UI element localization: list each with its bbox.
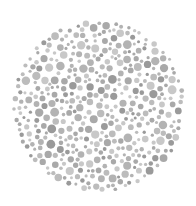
- plate-dot: [172, 129, 176, 133]
- plate-dot: [134, 63, 142, 71]
- plate-dot: [63, 92, 68, 97]
- plate-dot: [51, 76, 59, 84]
- plate-dot: [143, 79, 147, 83]
- plate-dot: [149, 90, 157, 98]
- plate-dot: [106, 113, 110, 117]
- plate-dot: [70, 176, 73, 179]
- plate-dot: [133, 43, 136, 46]
- plate-dot: [74, 137, 78, 141]
- plate-dot: [79, 100, 82, 103]
- plate-dot: [18, 90, 22, 94]
- plate-dot: [136, 112, 140, 116]
- plate-dot: [48, 100, 55, 107]
- plate-dot: [168, 85, 177, 94]
- plate-dot: [135, 96, 138, 99]
- plate-dot: [109, 149, 114, 154]
- plate-dot: [159, 109, 164, 114]
- plate-dot: [74, 114, 81, 121]
- plate-dot: [41, 40, 46, 45]
- plate-dot: [67, 135, 72, 140]
- plate-dots: [12, 20, 184, 191]
- plate-dot: [55, 174, 63, 182]
- plate-dot: [43, 136, 47, 140]
- plate-dot: [117, 78, 120, 81]
- plate-dot: [67, 43, 70, 46]
- plate-dot: [140, 60, 144, 64]
- plate-dot: [36, 129, 41, 134]
- plate-dot: [83, 20, 89, 26]
- plate-dot: [90, 115, 98, 123]
- plate-dot: [134, 56, 139, 61]
- plate-dot: [165, 112, 171, 118]
- plate-dot: [30, 64, 35, 69]
- plate-dot: [157, 86, 163, 92]
- plate-dot: [148, 109, 152, 113]
- plate-dot: [61, 119, 66, 124]
- plate-dot: [152, 107, 156, 111]
- plate-dot: [104, 118, 107, 121]
- plate-dot: [133, 88, 139, 94]
- plate-dot: [110, 115, 114, 119]
- plate-dot: [144, 163, 147, 166]
- plate-dot: [66, 167, 74, 175]
- plate-dot: [67, 75, 71, 79]
- plate-dot: [138, 104, 144, 110]
- plate-dot: [158, 76, 164, 82]
- plate-dot: [163, 97, 166, 100]
- plate-dot: [68, 29, 72, 33]
- plate-dot: [78, 127, 83, 132]
- plate-dot: [137, 73, 141, 77]
- plate-dot: [150, 118, 155, 123]
- plate-dot: [59, 141, 64, 146]
- plate-dot: [60, 51, 68, 59]
- plate-dot: [83, 116, 86, 119]
- plate-dot: [52, 92, 58, 98]
- plate-dot: [169, 76, 176, 83]
- plate-dot: [29, 154, 33, 158]
- plate-dot: [169, 96, 173, 100]
- plate-dot: [86, 181, 90, 185]
- plate-dot: [73, 73, 76, 76]
- plate-dot: [139, 83, 143, 87]
- plate-dot: [147, 56, 150, 59]
- plate-dot: [21, 72, 25, 76]
- plate-dot: [176, 126, 180, 130]
- plate-dot: [98, 175, 105, 182]
- plate-dot: [135, 131, 138, 134]
- plate-dot: [112, 139, 117, 144]
- plate-dot: [57, 146, 64, 153]
- plate-dot: [34, 60, 39, 65]
- plate-dot: [139, 163, 142, 166]
- color-vision-test-plate: [0, 0, 196, 206]
- plate-dot: [86, 45, 90, 49]
- plate-dot: [90, 174, 95, 179]
- plate-dot: [94, 39, 97, 42]
- plate-dot: [47, 37, 51, 41]
- plate-dot: [108, 47, 112, 51]
- plate-dot: [67, 68, 72, 73]
- plate-dot: [166, 133, 172, 139]
- plate-dot: [69, 98, 75, 104]
- plate-dot: [160, 55, 166, 61]
- plate-dot: [19, 111, 23, 115]
- plate-dot: [127, 26, 130, 29]
- plate-dot: [49, 57, 53, 61]
- plate-dot: [86, 148, 92, 154]
- plate-dot: [177, 119, 181, 123]
- plate-dot: [56, 85, 59, 88]
- plate-dot: [76, 51, 82, 57]
- plate-dot: [159, 102, 165, 108]
- plate-dot: [25, 96, 32, 103]
- plate-dot: [127, 181, 131, 185]
- plate-dot: [164, 84, 168, 88]
- plate-dot: [80, 33, 85, 38]
- plate-dot: [45, 131, 48, 134]
- plate-dot: [28, 57, 31, 60]
- plate-dot: [147, 150, 151, 154]
- plate-dot: [40, 55, 47, 62]
- plate-dot: [146, 167, 154, 175]
- plate-dot: [52, 161, 59, 168]
- plate-dot: [47, 93, 50, 96]
- plate-dot: [160, 92, 164, 96]
- plate-dot: [33, 157, 38, 162]
